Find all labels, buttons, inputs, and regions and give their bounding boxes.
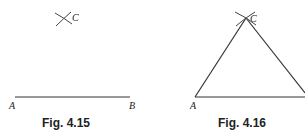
side-ac [195, 18, 246, 97]
figure-caption: Fig. 4.15 [42, 117, 90, 129]
label-point-b: B [129, 101, 135, 111]
arc-from-b [56, 12, 71, 26]
label-point-a: A [9, 101, 15, 111]
label-point-a: A [190, 101, 196, 111]
fig-4-15-drawing [15, 12, 130, 97]
figure-caption: Fig. 4.16 [218, 117, 266, 129]
label-point-c: C [72, 13, 79, 23]
fig-4-16-drawing [195, 12, 305, 97]
side-bc [246, 18, 305, 93]
figures-canvas [0, 0, 305, 131]
label-point-c: C [250, 14, 257, 24]
